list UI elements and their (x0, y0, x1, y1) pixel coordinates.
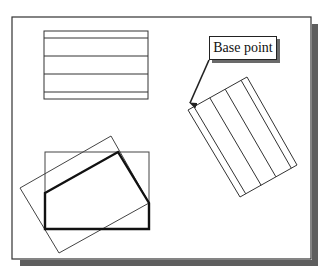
base-point-label: Base point (213, 40, 273, 56)
diagram-canvas (0, 0, 329, 277)
base-point-callout: Base point (209, 36, 277, 60)
